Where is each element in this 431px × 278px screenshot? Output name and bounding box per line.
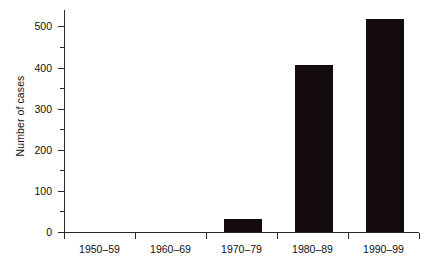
x-tick-label: 1960–69 bbox=[135, 243, 206, 255]
y-tick-minor bbox=[60, 129, 64, 130]
x-tick bbox=[64, 233, 65, 239]
x-tick-label: 1950–59 bbox=[64, 243, 135, 255]
x-tick bbox=[135, 233, 136, 239]
y-tick-minor bbox=[60, 47, 64, 48]
x-tick bbox=[348, 233, 349, 239]
y-tick-label: 0 bbox=[10, 227, 52, 237]
plot-area: 0100200300400500 1950–591960–691970–7919… bbox=[64, 10, 419, 232]
y-tick-minor bbox=[60, 170, 64, 171]
y-axis-title: Number of cases bbox=[12, 0, 28, 232]
y-tick-label: 400 bbox=[10, 63, 52, 73]
x-tick-label: 1990–99 bbox=[348, 243, 419, 255]
y-tick-major bbox=[58, 68, 64, 69]
bar-chart-figure: Number of cases 0100200300400500 1950–59… bbox=[0, 0, 431, 278]
bar bbox=[224, 219, 262, 232]
y-tick-major bbox=[58, 109, 64, 110]
bar bbox=[295, 65, 333, 232]
x-tick-label: 1980–89 bbox=[277, 243, 348, 255]
y-tick-major bbox=[58, 26, 64, 27]
y-tick-label: 200 bbox=[10, 145, 52, 155]
x-axis-line bbox=[64, 232, 419, 233]
bars-layer bbox=[65, 10, 419, 232]
x-tick-label: 1970–79 bbox=[206, 243, 277, 255]
y-tick-major bbox=[58, 150, 64, 151]
y-tick-label: 100 bbox=[10, 186, 52, 196]
y-tick-label: 500 bbox=[10, 21, 52, 31]
x-tick bbox=[277, 233, 278, 239]
bar bbox=[366, 19, 404, 232]
y-tick-minor bbox=[60, 211, 64, 212]
x-tick bbox=[206, 233, 207, 239]
x-tick bbox=[419, 233, 420, 239]
y-tick-label: 300 bbox=[10, 104, 52, 114]
y-tick-minor bbox=[60, 88, 64, 89]
y-tick-major bbox=[58, 191, 64, 192]
